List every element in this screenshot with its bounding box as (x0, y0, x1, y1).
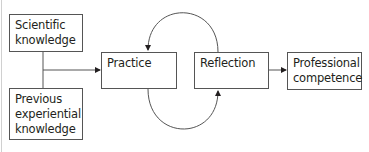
arc-reflection-to-practice (148, 13, 218, 52)
arc-practice-to-reflection (148, 89, 218, 129)
node-reflection: Reflection (194, 52, 269, 89)
diagram-canvas: Scientific knowledge Previous experienti… (0, 0, 369, 152)
node-label: Reflection (200, 56, 268, 71)
node-label: Practice (107, 56, 176, 71)
node-label: Professional competence (293, 56, 361, 86)
node-label: Scientific knowledge (15, 18, 82, 48)
node-previous-experiential-knowledge: Previous experiential knowledge (9, 88, 83, 140)
node-scientific-knowledge: Scientific knowledge (9, 14, 83, 52)
node-practice: Practice (101, 52, 177, 89)
node-label: Previous experiential knowledge (15, 92, 82, 137)
node-professional-competence: Professional competence (287, 52, 362, 90)
